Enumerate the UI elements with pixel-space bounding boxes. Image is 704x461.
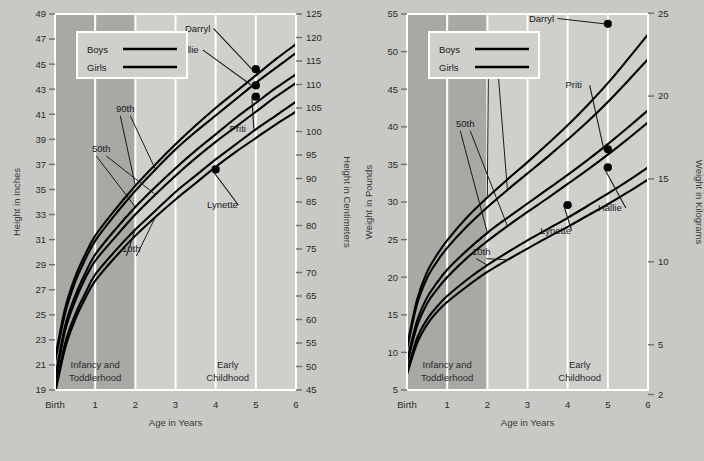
tick-label-left-39: 39 [35,134,46,145]
stage-band-label-1-line2: Childhood [558,372,601,383]
tick-label-right-20: 20 [658,90,669,101]
annotation-label-Priti: Priti [566,79,582,90]
annotation-label-Hallie: Hallie [598,202,622,213]
tick-label-right-120: 120 [306,32,322,43]
tick-label-x-6: 6 [645,399,650,410]
annotation-label-Darryl: Darryl [529,13,554,24]
tick-label-left-29: 29 [35,259,46,270]
tick-label-left-5: 5 [393,384,398,395]
tick-label-right-100: 100 [306,126,322,137]
tick-label-right-50: 50 [306,361,317,372]
tick-label-right-90: 90 [306,173,317,184]
annotation-label-Darryl: Darryl [185,23,210,34]
annotation-label-Lynette: Lynette [207,199,238,210]
tick-label-left-45: 45 [35,59,46,70]
tick-label-right-75: 75 [306,243,317,254]
stage-band-label-0-line1: Infancy and [71,359,120,370]
tick-label-left-25: 25 [35,309,46,320]
data-point-Hallie [604,163,612,171]
tick-label-right-45: 45 [306,384,317,395]
tick-label-left-45: 45 [387,84,398,95]
tick-label-left-55: 55 [387,8,398,19]
tick-label-right-105: 105 [306,102,322,113]
tick-label-x-4: 4 [565,399,570,410]
tick-label-right-65: 65 [306,290,317,301]
tick-label-left-31: 31 [35,234,46,245]
axis-title-x: Age in Years [149,417,203,428]
height-for-age-chart: 19212325272931333537394143454749Height i… [0,0,352,461]
chart-svg-weight: 510152025303540455055Weight in Pounds251… [352,0,704,461]
data-point-Darryl [252,65,260,73]
tick-label-left-10: 10 [387,347,398,358]
legend-label-boys: Boys [87,44,108,55]
tick-label-x-3: 3 [173,399,178,410]
data-point-Priti [252,93,260,101]
stage-band-label-0-line1: Infancy and [423,359,472,370]
tick-label-left-35: 35 [35,184,46,195]
tick-label-left-49: 49 [35,8,46,19]
tick-label-right-10: 10 [658,256,669,267]
tick-label-right-125: 125 [306,8,322,19]
tick-label-right-15: 15 [658,173,669,184]
growth-charts-figure: 19212325272931333537394143454749Height i… [0,0,704,461]
chart-svg-height: 19212325272931333537394143454749Height i… [0,0,352,461]
tick-label-right-55: 55 [306,337,317,348]
tick-label-right-115: 115 [306,55,321,66]
tick-label-right-70: 70 [306,267,317,278]
tick-label-right-95: 95 [306,149,317,160]
tick-label-right-85: 85 [306,196,317,207]
tick-label-right-5: 5 [658,339,663,350]
tick-label-left-47: 47 [35,33,46,44]
annotation-label-Priti: Priti [230,123,246,134]
data-point-Hallie [252,81,260,89]
tick-label-right-80: 80 [306,220,317,231]
tick-label-left-25: 25 [387,234,398,245]
tick-label-x-5: 5 [605,399,610,410]
tick-label-x-1: 1 [93,399,98,410]
tick-label-left-41: 41 [35,109,46,120]
tick-label-right-60: 60 [306,314,317,325]
stage-band-label-0-line2: Toddlerhood [69,372,121,383]
tick-label-x-0: Birth [397,399,417,410]
tick-label-left-33: 33 [35,209,46,220]
tick-label-left-20: 20 [387,272,398,283]
tick-label-left-37: 37 [35,159,46,170]
tick-label-right-110: 110 [306,79,321,90]
tick-label-left-50: 50 [387,46,398,57]
tick-label-right-25: 25 [658,8,669,19]
tick-label-left-19: 19 [35,384,46,395]
tick-label-left-27: 27 [35,284,46,295]
tick-label-x-3: 3 [525,399,530,410]
axis-title-left: Weight in Pounds [363,165,374,240]
tick-label-x-4: 4 [213,399,218,410]
weight-for-age-chart: 510152025303540455055Weight in Pounds251… [352,0,704,461]
legend-label-girls: Girls [439,62,459,73]
tick-label-x-2: 2 [133,399,138,410]
stage-band-label-0-line2: Toddlerhood [421,372,473,383]
stage-band-label-1-line2: Childhood [206,372,249,383]
data-point-Lynette [212,165,220,173]
axis-title-x: Age in Years [501,417,555,428]
data-point-Lynette [564,201,572,209]
tick-label-left-40: 40 [387,121,398,132]
tick-label-x-1: 1 [445,399,450,410]
tick-label-left-23: 23 [35,334,46,345]
data-point-Priti [604,145,612,153]
axis-title-right: Weight in Kilograms [694,160,704,245]
tick-label-x-6: 6 [293,399,298,410]
tick-label-x-5: 5 [253,399,258,410]
tick-label-left-15: 15 [387,309,398,320]
percentile-label-50th: 50th [456,118,475,129]
percentile-label-10th: 10th [472,246,491,257]
legend-label-girls: Girls [87,62,107,73]
percentile-label-50th: 50th [92,143,111,154]
tick-label-left-21: 21 [35,359,46,370]
stage-band-label-1-line1: Early [217,359,239,370]
annotation-label-Lynette: Lynette [540,225,571,236]
tick-label-left-30: 30 [387,196,398,207]
axis-title-left: Height in Inches [11,168,22,236]
legend-label-boys: Boys [439,44,460,55]
axis-title-right: Height in Centimeters [342,156,352,248]
percentile-label-90th: 90th [116,103,135,114]
tick-label-x-0: Birth [45,399,65,410]
